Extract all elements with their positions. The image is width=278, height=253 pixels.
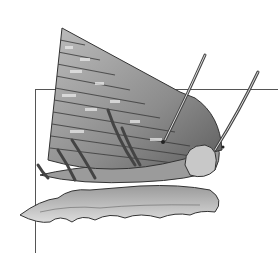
snail-eye	[161, 140, 165, 144]
snail-foot	[20, 186, 219, 223]
snail-illustration	[0, 0, 278, 253]
snail-head	[185, 145, 216, 177]
